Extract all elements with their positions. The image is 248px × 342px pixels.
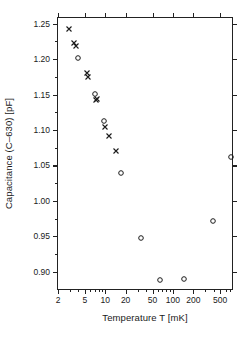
data-point-circle (157, 277, 164, 284)
x-tick-label: 100 (166, 296, 180, 305)
y-minor-tick-mark (55, 112, 58, 113)
y-minor-tick-mark (55, 219, 58, 220)
data-point-circle (75, 54, 82, 61)
data-point-circle (117, 169, 124, 176)
x-tick-mark-top (193, 13, 194, 18)
x-tick-mark-top (173, 13, 174, 18)
x-minor-tick-mark (102, 289, 103, 292)
x-tick-mark-top (105, 13, 106, 18)
y-tick-mark-right (232, 236, 237, 237)
y-tick-mark-right (232, 272, 237, 273)
x-minor-tick-mark (158, 289, 159, 292)
y-tick-label: 1.05 (33, 161, 50, 170)
x-tick-mark (85, 289, 86, 294)
chart-figure: 0.900.951.001.051.101.151.201.25 2510205… (0, 0, 248, 342)
data-point-circle (209, 217, 216, 224)
x-tick-mark (105, 289, 106, 294)
x-tick-label: 50 (148, 296, 157, 305)
x-axis-title-label: Temperature T [mK] (102, 312, 187, 323)
data-point-cross (93, 96, 100, 103)
y-tick-label: 0.90 (33, 268, 50, 277)
x-axis-title: Temperature T [mK] (57, 312, 233, 323)
y-tick-mark (53, 95, 58, 96)
plot-area: 0.900.951.001.051.101.151.201.25 2510205… (57, 17, 233, 290)
x-minor-tick-mark (138, 289, 139, 292)
x-tick-label: 10 (101, 296, 110, 305)
x-minor-tick-mark (214, 289, 215, 292)
y-minor-tick-mark (55, 254, 58, 255)
x-minor-tick-mark (70, 289, 71, 292)
y-axis-title-label: Capacitance (C–630) [pF] (4, 98, 15, 209)
data-point-cross (83, 70, 90, 77)
x-minor-tick-mark (78, 289, 79, 292)
x-tick-mark (193, 289, 194, 294)
y-tick-mark (53, 236, 58, 237)
y-tick-label: 1.25 (33, 19, 50, 28)
x-tick-mark-top (153, 13, 154, 18)
data-point-circle (180, 275, 187, 282)
y-minor-tick-mark (55, 183, 58, 184)
data-point-cross (94, 95, 101, 102)
y-tick-label: 1.00 (33, 197, 50, 206)
data-point-cross (73, 42, 80, 49)
x-tick-mark-top (58, 13, 59, 18)
data-point-circle (227, 153, 234, 160)
y-tick-mark (53, 272, 58, 273)
data-point-cross (71, 39, 78, 46)
x-tick-label: 20 (121, 296, 130, 305)
x-tick-mark (126, 289, 127, 294)
x-tick-mark-top (220, 13, 221, 18)
data-point-cross (105, 132, 112, 139)
y-tick-mark-right (232, 95, 237, 96)
x-minor-tick-mark (95, 289, 96, 292)
data-point-circle (100, 117, 107, 124)
data-point-circle (91, 90, 98, 97)
y-tick-label: 0.95 (33, 232, 50, 241)
x-minor-tick-mark (90, 289, 91, 292)
x-minor-tick-mark (230, 289, 231, 292)
data-point-cross (85, 73, 92, 80)
data-point-cross (113, 147, 120, 154)
x-minor-tick-mark (162, 289, 163, 292)
y-tick-mark-right (232, 165, 237, 166)
x-minor-tick-mark (166, 289, 167, 292)
data-point-cross (65, 25, 72, 32)
y-minor-tick-mark (55, 41, 58, 42)
y-tick-label: 1.10 (33, 126, 50, 135)
data-point-circle (138, 234, 145, 241)
y-tick-mark-right (232, 130, 237, 131)
data-point-cross (102, 124, 109, 131)
x-tick-label: 2 (56, 296, 61, 305)
x-tick-mark-top (126, 13, 127, 18)
x-tick-mark (58, 289, 59, 294)
y-tick-mark-right (232, 59, 237, 60)
y-tick-label: 1.20 (33, 55, 50, 64)
x-minor-tick-mark (170, 289, 171, 292)
y-tick-mark-right (232, 24, 237, 25)
x-tick-mark (173, 289, 174, 294)
x-tick-mark (153, 289, 154, 294)
x-minor-tick-mark (146, 289, 147, 292)
y-tick-label: 1.15 (33, 90, 50, 99)
x-tick-label: 5 (83, 296, 88, 305)
y-tick-mark (53, 59, 58, 60)
y-tick-mark (53, 130, 58, 131)
y-minor-tick-mark (55, 77, 58, 78)
x-tick-label: 500 (213, 296, 227, 305)
y-tick-mark (53, 24, 58, 25)
x-tick-mark (220, 289, 221, 294)
y-axis-title: Capacitance (C–630) [pF] (2, 17, 16, 290)
x-minor-tick-mark (226, 289, 227, 292)
x-tick-label: 200 (186, 296, 200, 305)
x-tick-mark-top (85, 13, 86, 18)
y-tick-mark (53, 201, 58, 202)
y-minor-tick-mark (55, 148, 58, 149)
x-minor-tick-mark (205, 289, 206, 292)
x-minor-tick-mark (99, 289, 100, 292)
y-tick-mark (53, 165, 58, 166)
y-tick-mark-right (232, 201, 237, 202)
